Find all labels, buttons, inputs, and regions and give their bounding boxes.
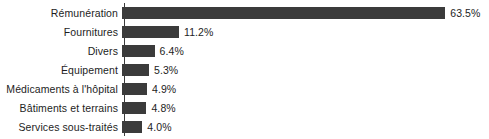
category-label: Services sous-traités	[0, 121, 122, 133]
bar-track: 6.4%	[122, 41, 489, 60]
bar-row: Médicaments à l'hôpital 4.9%	[0, 79, 489, 98]
bar-track: 5.3%	[122, 60, 489, 79]
category-label: Bâtiments et terrains	[0, 102, 122, 114]
bar-row: Bâtiments et terrains 4.8%	[0, 98, 489, 117]
bar	[122, 26, 179, 38]
bar-track: 4.8%	[122, 98, 489, 117]
value-label: 4.0%	[142, 121, 171, 133]
bar	[122, 102, 146, 114]
bar-row: Divers 6.4%	[0, 41, 489, 60]
bar	[122, 83, 147, 95]
bar	[122, 7, 445, 19]
category-label: Équipement	[0, 64, 122, 76]
value-label: 4.9%	[147, 83, 176, 95]
category-label: Médicaments à l'hôpital	[0, 83, 122, 95]
bar-track: 11.2%	[122, 22, 489, 41]
value-label: 6.4%	[155, 45, 184, 57]
bar-row: Services sous-traités 4.0%	[0, 117, 489, 136]
bar-chart: Rémunération 63.5% Fournitures 11.2% Div…	[0, 0, 489, 139]
value-label: 5.3%	[149, 64, 178, 76]
value-label: 63.5%	[445, 7, 480, 19]
bar	[122, 121, 142, 133]
bar-row: Équipement 5.3%	[0, 60, 489, 79]
category-label: Fournitures	[0, 26, 122, 38]
plot-area: Rémunération 63.5% Fournitures 11.2% Div…	[0, 0, 489, 139]
bar-track: 4.0%	[122, 117, 489, 136]
category-label: Rémunération	[0, 7, 122, 19]
bar-row: Rémunération 63.5%	[0, 3, 489, 22]
value-label: 4.8%	[146, 102, 175, 114]
value-label: 11.2%	[179, 26, 214, 38]
bar	[122, 45, 155, 57]
bar-row: Fournitures 11.2%	[0, 22, 489, 41]
bar	[122, 64, 149, 76]
bar-track: 63.5%	[122, 3, 489, 22]
category-label: Divers	[0, 45, 122, 57]
bar-track: 4.9%	[122, 79, 489, 98]
